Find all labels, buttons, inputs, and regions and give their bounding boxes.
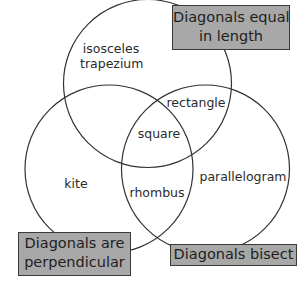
set-label-diagonals-equal: Diagonals equal in length	[172, 5, 290, 50]
circle-diagonals-perpendicular	[25, 85, 193, 253]
label-kite: kite	[56, 176, 96, 191]
set-label-bisect-text: Diagonals bisect	[171, 245, 296, 264]
set-label-perpendicular-line1: Diagonals are	[19, 234, 130, 253]
label-square: square	[132, 126, 186, 141]
label-isosceles: isosceles	[80, 41, 142, 56]
label-rectangle: rectangle	[163, 95, 229, 110]
label-rhombus: rhombus	[127, 185, 187, 200]
set-label-diagonals-perpendicular: Diagonals are perpendicular	[18, 232, 131, 276]
region-isosceles-trapezium: isosceles trapezium	[80, 41, 142, 71]
label-trapezium: trapezium	[80, 56, 142, 71]
set-label-equal-line2: in length	[173, 27, 289, 46]
set-label-equal-line1: Diagonals equal	[173, 8, 289, 27]
set-label-perpendicular-line2: perpendicular	[19, 253, 130, 272]
set-label-diagonals-bisect: Diagonals bisect	[170, 244, 297, 266]
label-parallelogram: parallelogram	[195, 169, 291, 184]
venn-diagram: isosceles trapezium rectangle square kit…	[0, 0, 306, 282]
